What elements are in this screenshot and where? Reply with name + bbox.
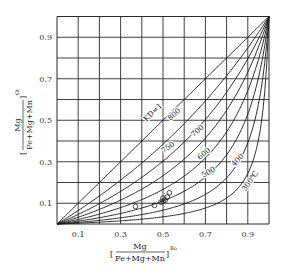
curve-label: 500: [200, 164, 217, 179]
y-label-superscript: Gt: [14, 89, 20, 95]
x-axis-label: [ Mg Fe+Mg+Mn ] Bo: [110, 242, 177, 263]
curve-label: 600: [195, 145, 212, 161]
x-label-open-bracket: [: [110, 250, 113, 259]
y-label-denominator: Fe+Mg+Mn: [25, 100, 34, 150]
y-label-open-bracket: [: [19, 152, 28, 155]
y-tick-label: 0.3: [39, 158, 52, 167]
curve-label: 400: [229, 152, 246, 169]
curve-label: 300℃: [240, 169, 260, 193]
x-tick-label: 0.1: [72, 230, 85, 239]
y-tick-label: 0.1: [39, 199, 52, 208]
chart: KD=1800750700600500400300℃ 0.10.30.50.70…: [0, 0, 283, 276]
y-axis-label: [ Mg Fe+Mg+Mn ] Gt: [13, 89, 34, 155]
x-tick-labels: 0.10.30.50.70.9: [72, 230, 254, 239]
data-point: [133, 204, 138, 209]
x-tick-label: 0.9: [241, 230, 254, 239]
curve-labels: KD=1800750700600500400300℃: [142, 101, 261, 193]
y-tick-label: 0.7: [39, 75, 52, 84]
y-tick-label: 0.5: [39, 116, 52, 125]
y-tick-label: 0.9: [39, 33, 52, 42]
x-label-denominator: Fe+Mg+Mn: [115, 254, 165, 263]
curve-label: 700: [189, 123, 206, 139]
y-label-numerator: Mg: [13, 118, 22, 131]
x-label-superscript: Bo: [170, 245, 177, 251]
data-point: [167, 190, 172, 195]
x-label-numerator: Mg: [133, 242, 146, 251]
x-tick-label: 0.5: [157, 230, 170, 239]
y-tick-labels: 0.10.30.50.70.9: [39, 33, 52, 208]
x-tick-label: 0.3: [114, 230, 127, 239]
y-label-close-bracket: ]: [19, 96, 28, 99]
curve-label: 750: [159, 139, 176, 155]
x-label-close-bracket: ]: [166, 250, 169, 259]
x-tick-label: 0.7: [199, 230, 212, 239]
